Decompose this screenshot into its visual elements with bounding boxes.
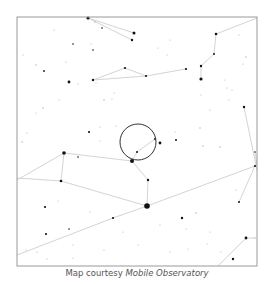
star — [254, 237, 255, 238]
map-caption: Map courtesy Mobile Observatory — [0, 268, 274, 278]
star — [111, 98, 112, 99]
star — [90, 43, 91, 44]
star — [72, 257, 73, 258]
star — [44, 206, 46, 208]
star — [200, 65, 202, 67]
star — [219, 146, 220, 147]
star — [60, 180, 63, 183]
star — [101, 27, 103, 29]
star — [133, 32, 136, 35]
star — [72, 244, 73, 245]
star — [245, 56, 246, 57]
star — [95, 82, 96, 83]
star — [124, 67, 126, 69]
map-background — [0, 0, 274, 284]
star — [159, 224, 160, 225]
star — [115, 125, 116, 126]
star — [103, 249, 104, 250]
star — [122, 231, 123, 232]
star — [147, 179, 149, 181]
star — [43, 70, 45, 72]
star — [224, 79, 225, 80]
star — [112, 217, 114, 219]
star — [99, 140, 100, 141]
star — [199, 127, 200, 128]
star — [136, 151, 138, 153]
star — [53, 29, 54, 30]
star — [99, 126, 100, 127]
star — [25, 249, 26, 250]
star — [145, 75, 147, 77]
star — [103, 99, 104, 100]
star — [65, 61, 66, 62]
star — [209, 109, 210, 110]
star — [159, 142, 162, 145]
star — [185, 228, 186, 229]
star — [254, 151, 256, 153]
star — [68, 81, 71, 84]
star — [185, 68, 187, 70]
star — [238, 201, 240, 203]
star — [77, 156, 79, 158]
star — [72, 43, 74, 45]
star — [209, 231, 210, 232]
star — [26, 132, 27, 133]
star — [21, 141, 22, 142]
star — [187, 248, 188, 249]
star — [242, 63, 243, 64]
star — [35, 64, 36, 65]
star — [169, 251, 170, 252]
star — [195, 212, 196, 213]
star — [94, 21, 95, 22]
star — [68, 228, 70, 230]
star — [92, 49, 94, 51]
star — [232, 258, 234, 260]
star — [175, 139, 177, 141]
star — [199, 77, 202, 80]
star — [92, 79, 94, 81]
star — [35, 112, 36, 113]
star — [231, 89, 232, 90]
star — [181, 217, 183, 219]
star — [200, 94, 201, 95]
caption-source: Mobile Observatory — [126, 268, 209, 278]
star — [62, 151, 66, 155]
caption-prefix: Map courtesy — [65, 268, 125, 278]
star — [169, 39, 170, 40]
star — [243, 106, 245, 108]
star — [215, 33, 218, 36]
star — [254, 165, 256, 167]
star — [36, 251, 37, 252]
star-map — [0, 0, 274, 284]
star — [42, 107, 43, 108]
star — [245, 237, 248, 240]
star — [113, 92, 114, 93]
star — [137, 244, 138, 245]
star — [174, 131, 175, 132]
star — [226, 87, 227, 88]
star — [57, 200, 58, 201]
star — [88, 131, 90, 133]
star — [228, 99, 229, 100]
star — [157, 47, 158, 48]
star — [206, 243, 207, 244]
star — [58, 99, 59, 100]
star — [45, 233, 47, 235]
star — [89, 211, 90, 212]
star — [144, 203, 150, 209]
star — [166, 54, 167, 55]
star — [22, 54, 23, 55]
star — [131, 39, 133, 41]
star — [238, 34, 239, 35]
star — [202, 145, 203, 146]
star — [213, 53, 215, 55]
star — [220, 251, 221, 252]
star — [235, 189, 236, 190]
star — [46, 258, 47, 259]
star — [77, 83, 78, 84]
